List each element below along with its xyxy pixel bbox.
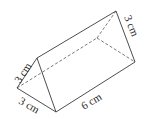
prism-svg: 3 cm 3 cm 6 cm 3 cm xyxy=(0,0,148,119)
prism-diagram: 3 cm 3 cm 6 cm 3 cm xyxy=(0,0,148,119)
label-length-edge: 6 cm xyxy=(79,90,104,112)
label-front-bottom-edge: 3 cm xyxy=(17,94,42,115)
hidden-edge-front-left-to-back-left xyxy=(17,38,97,88)
label-front-left-edge: 3 cm xyxy=(12,60,34,85)
hidden-edge-back-left-to-back-right xyxy=(97,38,135,62)
hidden-edge-back-top-to-back-left xyxy=(97,11,116,38)
visible-edges xyxy=(17,11,135,112)
hidden-edges xyxy=(17,11,135,88)
